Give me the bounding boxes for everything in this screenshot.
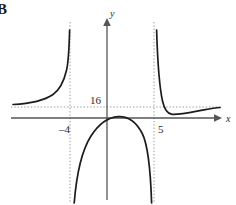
y-axis-label: y [109,8,115,19]
y-axis-arrowhead [103,18,111,26]
curve-left-branch [13,30,70,105]
y-asymptote-label-16: 16 [90,94,102,106]
x-tick-label-minus-4: –4 [58,123,71,135]
x-axis-arrowhead [214,114,222,122]
curve-right-branch [157,30,220,114]
panel-letter: B [0,2,7,17]
x-tick-label-5: 5 [158,123,164,135]
curve-middle-branch [74,117,151,203]
graph-canvas: –4 5 16 x y [0,0,236,205]
x-axis-label: x [225,113,231,124]
function-graph-figure: B –4 5 16 x y [0,0,236,205]
